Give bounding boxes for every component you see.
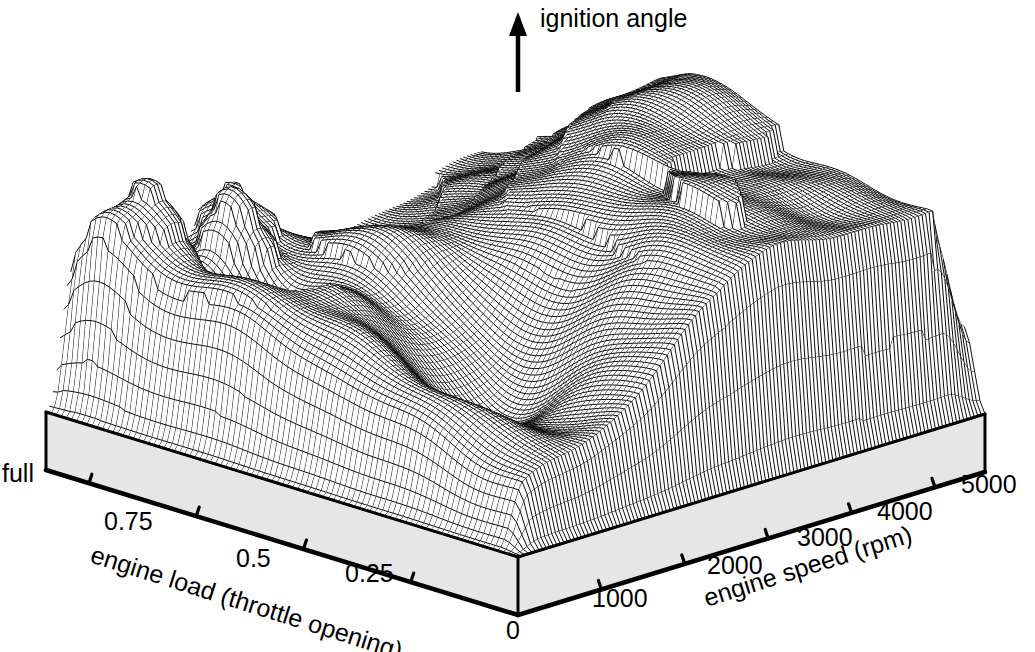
z-axis-arrowhead xyxy=(509,12,527,36)
z-axis-title: ignition angle xyxy=(540,4,687,33)
origin-tick-label: 0 xyxy=(506,616,520,645)
x-axis-tick-5000: 5000 xyxy=(961,470,1017,499)
figure-canvas: ignition angle full 0.75 0.5 0.25 0 1000… xyxy=(0,0,1035,652)
x-axis-tick-1000: 1000 xyxy=(592,584,648,613)
y-axis-tick-full: full xyxy=(2,459,34,488)
y-axis-tick-075: 0.75 xyxy=(104,507,153,536)
y-axis-tick-05: 0.5 xyxy=(236,544,271,573)
y-axis-tick-025: 0.25 xyxy=(345,559,394,588)
z-axis-arrow xyxy=(509,12,527,92)
